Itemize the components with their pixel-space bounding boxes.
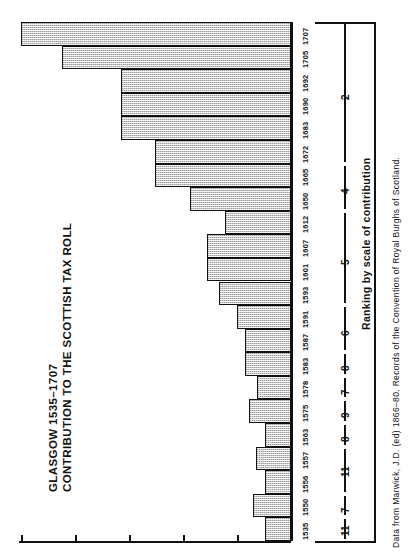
rank-panel-top-rule	[315, 22, 375, 24]
rank-value-label: 8	[340, 436, 351, 442]
bar	[265, 423, 291, 447]
rank-bracket	[344, 24, 346, 162]
rank-panel-border	[310, 22, 312, 543]
bar	[21, 22, 291, 46]
bar	[155, 140, 291, 164]
bar	[207, 234, 291, 258]
value-axis	[19, 541, 291, 543]
year-tick-label: 1672	[301, 145, 310, 163]
rank-panel-bottom-rule	[315, 541, 375, 543]
category-axis	[291, 22, 293, 541]
value-axis-tick	[75, 535, 77, 541]
year-tick-label: 1601	[301, 263, 310, 281]
year-tick-label: 1650	[301, 192, 310, 210]
rank-value-label: 9	[340, 413, 351, 419]
bar	[265, 517, 291, 541]
rank-value-label: 11	[340, 467, 351, 478]
year-tick-label: 1705	[301, 51, 310, 69]
chart-title-line1: GLASGOW 1535–1707	[47, 223, 61, 492]
year-tick-label: 1583	[301, 357, 310, 375]
year-tick-label: 1591	[301, 310, 310, 328]
year-tick-label: 1612	[301, 216, 310, 234]
year-tick-label: 1587	[301, 334, 310, 352]
bar	[121, 116, 291, 140]
bar	[257, 376, 291, 400]
year-tick-label: 1707	[301, 27, 310, 45]
bar	[237, 305, 291, 329]
rank-value-label: 2	[340, 94, 351, 100]
bar	[121, 69, 291, 93]
bar	[256, 447, 291, 471]
year-tick-label: 1535	[301, 523, 310, 541]
bar	[121, 93, 291, 117]
bar	[245, 352, 291, 376]
rank-value-label: 11	[340, 526, 351, 537]
value-axis-tick	[183, 535, 185, 541]
rank-bracket	[344, 213, 346, 303]
year-tick-label: 1578	[301, 381, 310, 399]
bar	[245, 329, 291, 353]
year-tick-label: 1692	[301, 74, 310, 92]
chart-title: GLASGOW 1535–1707 CONTRIBUTION TO THE SC…	[47, 223, 74, 492]
year-tick-label: 1665	[301, 169, 310, 187]
bar	[219, 282, 291, 306]
value-axis-tick	[21, 535, 23, 541]
value-axis-tick	[237, 535, 239, 541]
year-tick-label: 1563	[301, 428, 310, 446]
year-tick-label: 1593	[301, 287, 310, 305]
bar	[225, 211, 291, 235]
bar	[253, 494, 291, 518]
rank-value-label: 8	[340, 366, 351, 372]
year-tick-label: 1557	[301, 452, 310, 470]
year-tick-label: 1550	[301, 499, 310, 517]
value-axis-tick	[291, 535, 293, 541]
rank-value-label: 7	[340, 389, 351, 395]
bar	[62, 46, 291, 70]
year-tick-label: 1556	[301, 475, 310, 493]
year-tick-label: 1690	[301, 98, 310, 116]
year-tick-label: 1683	[301, 121, 310, 139]
bar	[155, 164, 291, 188]
rank-value-label: 5	[340, 259, 351, 265]
rank-value-label: 6	[340, 330, 351, 336]
rank-bracket	[344, 307, 346, 350]
rank-axis-title: Ranking by scale of contribution	[360, 158, 372, 330]
bar	[190, 187, 291, 211]
source-note: Data from Marwick, J.D. (ed) 1866–80. Re…	[391, 157, 401, 548]
rank-value-label: 7	[340, 507, 351, 513]
value-axis-tick	[129, 535, 131, 541]
rank-value-label: 4	[340, 189, 351, 195]
rank-panel-right-rule	[374, 22, 376, 543]
year-tick-label: 1607	[301, 239, 310, 257]
bar	[249, 399, 291, 423]
year-tick-label: 1575	[301, 405, 310, 423]
bar	[265, 470, 291, 494]
chart-figure: 1707170516921690168316721665165016121607…	[0, 0, 409, 556]
chart-title-line2: CONTRIBUTION TO THE SCOTTISH TAX ROLL	[61, 223, 75, 492]
bar	[207, 258, 291, 282]
